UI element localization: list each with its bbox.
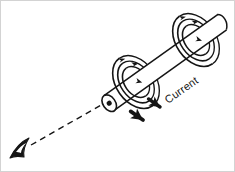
diagram-canvas: Current [0,0,235,172]
physics-diagram-figure: Current [0,0,235,172]
